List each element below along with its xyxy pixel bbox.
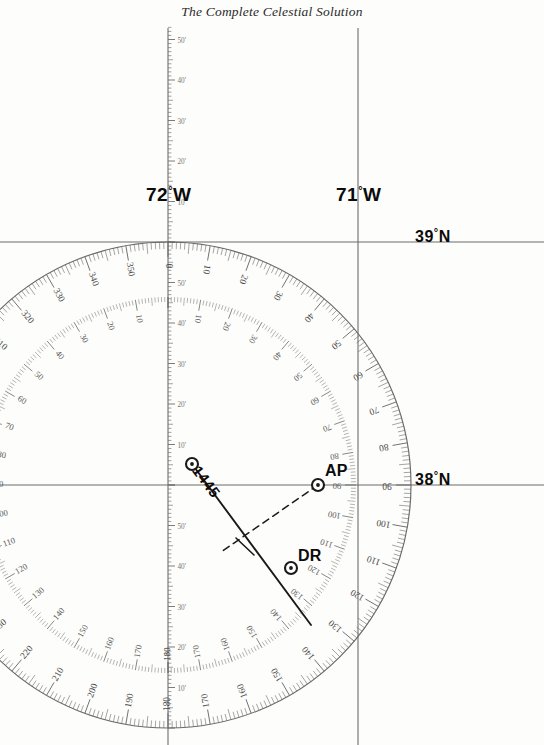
rose-degree-tick — [117, 716, 118, 723]
dead-reckoning-marker-dot — [289, 566, 293, 570]
rose-relative-tick — [26, 362, 30, 365]
rose-relative-tick — [68, 640, 71, 644]
rose-degree-tick — [385, 577, 391, 580]
rose-degree-tick — [338, 649, 343, 654]
rose-relative-tick — [222, 305, 223, 310]
parallel-39n-hemisphere: N — [439, 228, 451, 245]
rose-outer-label: 30 — [271, 289, 285, 302]
rose-degree-tick — [398, 430, 405, 432]
rose-relative-tick — [14, 377, 21, 382]
minute-label: 30' — [178, 361, 186, 369]
rose-degree-tick — [323, 663, 328, 668]
rose-relative-tick — [244, 315, 247, 322]
rose-relative-tick — [331, 568, 335, 570]
rose-relative-tick — [37, 617, 40, 621]
rose-relative-tick — [278, 631, 281, 635]
rose-inner-label: 30 — [78, 332, 91, 344]
rose-relative-tick — [132, 300, 133, 305]
rose-degree-tick — [256, 260, 259, 266]
rose-relative-tick — [52, 629, 55, 633]
rose-outer-label: 330 — [51, 286, 67, 303]
rose-relative-tick — [77, 321, 79, 325]
rose-relative-tick — [2, 397, 6, 399]
rose-degree-tick — [65, 265, 70, 275]
rose-degree-tick — [246, 257, 251, 271]
rose-relative-tick — [347, 501, 355, 502]
rose-relative-tick — [282, 621, 289, 629]
rose-relative-tick — [60, 331, 65, 338]
rose-relative-tick — [116, 661, 117, 666]
rose-degree-tick — [117, 247, 118, 254]
rose-relative-tick — [237, 311, 239, 316]
minute-label: 30' — [178, 118, 186, 126]
rose-relative-tick — [142, 299, 143, 304]
rose-degree-tick — [315, 299, 325, 310]
rose-relative-tick — [293, 619, 296, 623]
rose-relative-tick — [251, 317, 253, 321]
rose-degree-tick — [221, 715, 223, 722]
rose-relative-tick — [234, 656, 236, 661]
parallel-39n-value: 39 — [415, 228, 434, 245]
rose-outer-label: 60 — [351, 370, 364, 384]
rose-degree-tick — [237, 711, 239, 718]
rose-outer-label: 160 — [235, 682, 249, 699]
rose-inner-label: 150 — [244, 624, 259, 640]
rose-inner-label: 10 — [193, 314, 204, 324]
rose-relative-tick — [257, 321, 259, 325]
rose-degree-tick — [374, 367, 380, 370]
rose-relative-tick — [251, 648, 253, 652]
rose-relative-tick — [92, 652, 94, 657]
rose-inner-label: 20 — [105, 320, 117, 331]
rose-degree-tick — [197, 719, 198, 726]
rose-degree-tick — [279, 693, 282, 699]
meridian-71w-value: 71 — [336, 184, 358, 205]
rose-degree-tick — [376, 371, 382, 374]
rose-relative-tick — [52, 337, 55, 341]
rose-relative-tick — [330, 571, 334, 573]
rose-degree-tick — [275, 268, 278, 274]
rose-degree-tick — [402, 514, 409, 515]
rose-degree-tick — [246, 699, 251, 713]
rose-degree-tick — [217, 247, 218, 254]
rose-degree-tick — [205, 718, 206, 725]
rose-relative-tick — [0, 559, 1, 561]
rose-relative-tick — [209, 302, 210, 307]
rose-degree-tick — [213, 717, 214, 724]
rose-degree-tick — [105, 250, 108, 261]
rose-degree-tick — [15, 296, 19, 301]
rose-degree-tick — [380, 378, 386, 381]
rose-relative-tick — [350, 462, 355, 463]
rose-relative-tick — [350, 465, 355, 466]
rose-degree-tick — [50, 272, 53, 278]
rose-degree-tick — [81, 258, 84, 265]
rose-degree-tick — [332, 310, 337, 315]
rose-degree-tick — [378, 382, 388, 387]
minute-label: 40' — [178, 563, 186, 571]
rose-degree-tick — [395, 418, 402, 420]
rose-degree-tick — [351, 634, 356, 638]
rose-degree-tick — [399, 464, 410, 465]
rose-relative-tick — [10, 585, 14, 588]
rose-relative-tick — [42, 345, 45, 349]
rose-degree-tick — [399, 434, 406, 435]
rose-relative-tick — [0, 546, 2, 550]
rose-relative-tick — [22, 367, 26, 370]
rose-degree-tick — [97, 711, 99, 718]
rose-relative-tick — [98, 311, 100, 316]
rose-degree-tick — [266, 695, 271, 705]
rose-relative-tick — [42, 621, 45, 625]
rose-relative-tick — [262, 642, 265, 646]
rose-relative-tick — [229, 308, 233, 318]
rose-relative-tick — [0, 568, 4, 570]
rose-relative-tick — [342, 542, 347, 544]
rose-degree-tick — [358, 618, 367, 624]
rose-relative-tick — [347, 446, 352, 447]
assumed-position-marker-dot — [316, 483, 320, 487]
rose-degree-tick — [9, 663, 14, 668]
rose-degree-tick — [356, 339, 362, 343]
rose-degree-tick — [313, 671, 317, 677]
rose-relative-tick — [145, 298, 146, 303]
rose-degree-tick — [0, 310, 4, 315]
rose-relative-tick — [16, 593, 20, 596]
rose-degree-tick — [393, 525, 408, 528]
